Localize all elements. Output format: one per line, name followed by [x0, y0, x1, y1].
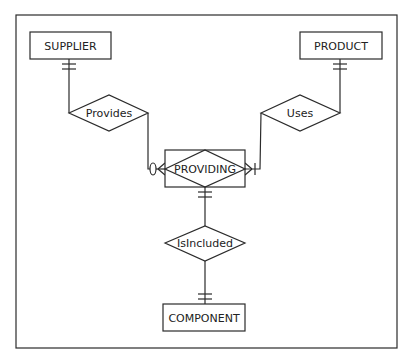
entity-component-label: COMPONENT — [168, 312, 240, 325]
connector-uses-providing — [245, 113, 261, 175]
entity-product-label: PRODUCT — [314, 40, 368, 53]
relationship-uses[interactable]: Uses — [261, 95, 340, 131]
connector-isincluded-component — [198, 261, 212, 304]
crows-foot-icon — [158, 163, 165, 169]
entity-supplier[interactable]: SUPPLIER — [30, 32, 111, 59]
relationship-isincluded-label: IsIncluded — [177, 237, 233, 250]
er-diagram: SUPPLIER PRODUCT Provides Uses PROVIDING… — [0, 0, 406, 358]
connector-provides-providing — [148, 113, 165, 175]
entity-supplier-label: SUPPLIER — [44, 40, 97, 53]
relationship-uses-label: Uses — [287, 107, 314, 120]
relationship-isincluded[interactable]: IsIncluded — [165, 226, 245, 261]
connector-supplier-provides — [62, 59, 76, 113]
entity-providing[interactable]: PROVIDING — [165, 150, 245, 187]
relationship-provides[interactable]: Provides — [69, 95, 148, 131]
connector-product-uses — [333, 59, 347, 113]
crows-foot-icon — [245, 163, 252, 169]
connector-providing-isincluded — [198, 187, 212, 226]
entity-component[interactable]: COMPONENT — [163, 304, 245, 331]
relationship-provides-label: Provides — [86, 107, 133, 120]
zero-circle-icon — [150, 163, 156, 175]
entity-providing-label: PROVIDING — [174, 163, 236, 176]
entity-product[interactable]: PRODUCT — [300, 32, 382, 59]
